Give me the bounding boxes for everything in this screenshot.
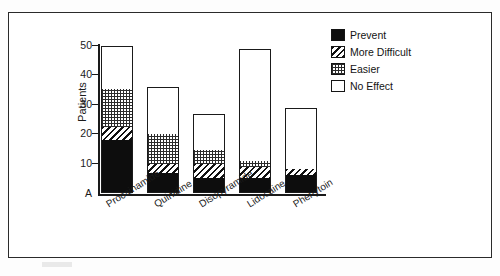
segment-no-effect [239, 49, 271, 161]
y-tick-label-20: 20 [66, 128, 92, 138]
legend-swatch-prevent [331, 29, 345, 41]
legend-swatch-more-difficult [331, 46, 345, 58]
scan-artifact [42, 262, 72, 267]
y-tick-label-30: 30 [66, 99, 92, 109]
segment-no-effect [101, 46, 133, 89]
y-tick-mark-40 [92, 74, 99, 75]
segment-easier [101, 89, 133, 127]
y-tick-label-10: 10 [66, 158, 92, 168]
legend-swatch-easier [331, 63, 345, 75]
legend: Prevent More Difficult Easier No Effect [331, 27, 411, 95]
y-tick-mark-20 [92, 133, 99, 134]
legend-label-no-effect: No Effect [350, 80, 393, 92]
legend-item-more-difficult: More Difficult [331, 44, 411, 59]
y-tick-label-50: 50 [66, 40, 92, 50]
y-tick-label-0: A [66, 188, 92, 198]
y-tick-label-40: 40 [66, 69, 92, 79]
y-tick-mark-10 [92, 163, 99, 164]
legend-swatch-no-effect [331, 80, 345, 92]
segment-no-effect [193, 114, 225, 151]
legend-label-easier: Easier [350, 63, 380, 75]
segment-more-difficult [285, 169, 317, 175]
segment-easier [239, 161, 271, 167]
figure-container: Patients 50 40 30 20 10 A [0, 0, 500, 276]
y-axis-tick-labels: 50 40 30 20 10 A [62, 0, 92, 276]
y-tick-mark-30 [92, 104, 99, 105]
legend-label-prevent: Prevent [350, 29, 386, 41]
segment-easier [193, 150, 225, 163]
segment-easier [147, 134, 179, 164]
segment-more-difficult [101, 127, 133, 141]
segment-more-difficult [193, 164, 225, 179]
y-tick-mark-50 [92, 45, 99, 46]
segment-no-effect [285, 108, 317, 170]
legend-label-more-difficult: More Difficult [350, 46, 411, 58]
plot-area [99, 46, 321, 193]
legend-item-easier: Easier [331, 61, 411, 76]
legend-item-prevent: Prevent [331, 27, 411, 42]
segment-no-effect [147, 87, 179, 134]
legend-item-no-effect: No Effect [331, 78, 411, 93]
